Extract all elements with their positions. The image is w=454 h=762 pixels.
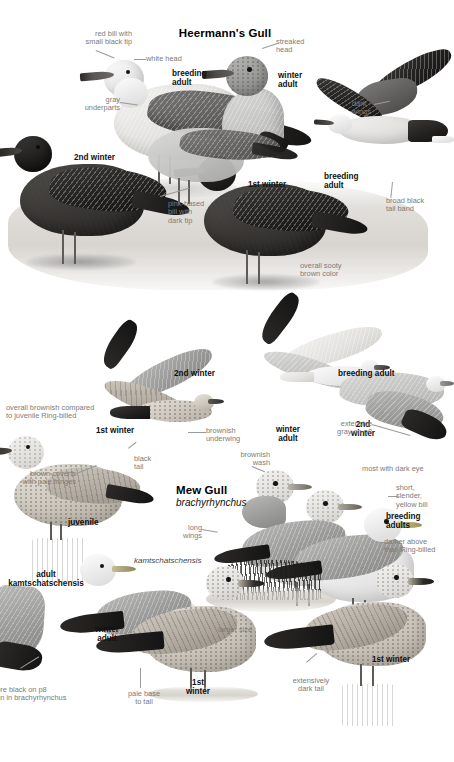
age-label-mew-1st-winter-right: 1st winter <box>372 655 410 664</box>
age-label-mew-breeding-adults: breeding adults <box>386 512 421 530</box>
annotation-gray-underparts: gray underparts <box>58 96 120 113</box>
annotation-black-tail: black tail <box>134 455 151 472</box>
annotation-most-dark-eye: most with dark eye <box>362 465 424 473</box>
bird-mew-juvenile <box>0 432 150 556</box>
age-label-1st-winter: 1st winter <box>248 180 286 189</box>
annotation-pale-base-to-tail: pale base to tail <box>116 690 172 707</box>
annotation-darker-above: darker above than Ring-billed <box>384 538 435 555</box>
age-label-mew-1st-winter-flight: 1st winter <box>96 426 134 435</box>
age-label-winter-adult: winter adult <box>278 71 302 89</box>
annotation-streaked-head: streaked head <box>276 38 304 55</box>
annotation-brown-coverts: brown coverts with pale fringes <box>0 470 76 487</box>
annotation-red-bill: red bill with small black tip <box>48 30 132 47</box>
annotation-overall-brownish: overall brownish compared to juvenile Ri… <box>6 404 94 421</box>
page-title-mew: Mew Gull <box>176 484 227 497</box>
age-label-kam-winter-adult: winter adult <box>86 625 128 643</box>
annotation-brownish-underwing: brownish underwing <box>206 427 240 444</box>
annotation-more-black-p8: more black on p8 than in brachyrhynchus <box>0 686 66 703</box>
age-label-2nd-winter: 2nd winter <box>74 153 115 162</box>
annotation-long-wings: long wings <box>158 524 202 541</box>
annotation-short-slender-bill: short, slender, yellow bill <box>396 484 428 509</box>
annotation-extensively-dark-tail: extensively dark tail <box>280 677 342 694</box>
field-guide-plate: Heermann's Gull <box>0 0 454 762</box>
age-label-adult-kamtschatschensis: adult kamtschatschensis <box>0 570 94 589</box>
scientific-name-mew: brachyrhynchus <box>176 497 247 508</box>
annotation-pink-based-bill: pink-based bill with dark tip <box>168 200 204 225</box>
annotation-broad-black-tail-band: broad black tail band <box>386 197 424 214</box>
subspecies-label-kamtschatschensis-bottom: kamtschatschensis <box>134 557 202 566</box>
age-label-mew-breeding-adult-flight: breeding adult <box>338 369 394 378</box>
age-label-mew-juvenile: juvenile <box>68 518 99 527</box>
age-label-mew-winter-adult: winter adult <box>268 425 308 443</box>
annotation-sooty-brown: overall sooty brown color <box>300 262 342 279</box>
annotation-white-head: white head <box>146 55 182 63</box>
annotation-larger-size: larger size <box>218 626 252 634</box>
age-label-breeding-adult: breeding adult <box>172 69 207 87</box>
age-label-breeding-adult-flight: breeding adult <box>324 172 359 190</box>
age-label-kam-1st-winter: 1st winter <box>178 678 218 696</box>
age-label-mew-2nd-winter-flight: 2nd winter <box>174 369 215 378</box>
annotation-extensive-gray-p8: extensive gray on p8 <box>308 420 372 437</box>
annotation-dark-wings: dark wings <box>352 100 371 117</box>
bird-mew-adult-kamtschatschensis-wing <box>0 586 56 684</box>
annotation-brownish-wash: brownish wash <box>220 451 270 468</box>
